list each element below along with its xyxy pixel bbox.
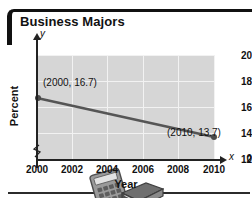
y-tick-14: 14 <box>218 129 252 139</box>
x-tick-2002: 2002 <box>54 164 90 175</box>
data-series-line <box>37 55 215 160</box>
x-axis-title: Year <box>86 178 166 190</box>
y-tick-18: 18 <box>218 77 252 87</box>
y-tick-16: 16 <box>218 103 252 113</box>
annotation-2010: (2010, 13.7) <box>167 127 221 138</box>
x-tick-2004: 2004 <box>89 164 125 175</box>
annotation-2000: (2000, 16.7) <box>43 77 97 88</box>
x-tick-2000: 2000 <box>19 164 55 175</box>
plot-area <box>37 55 215 160</box>
x-tick-2006: 2006 <box>125 164 161 175</box>
line-chart: y x 20 18 16 14 12 0 2000 2002 2004 2006… <box>0 0 252 198</box>
x-tick-2010: 2010 <box>196 164 232 175</box>
y-tick-0-hidden: 0 <box>218 154 252 164</box>
x-tick-2008: 2008 <box>160 164 196 175</box>
y-axis-title: Percent <box>8 76 20 136</box>
y-axis-symbol: y <box>40 28 45 39</box>
y-tick-20: 20 <box>218 51 252 61</box>
axis-break-icon <box>31 144 43 158</box>
x-axis-line <box>36 159 222 161</box>
